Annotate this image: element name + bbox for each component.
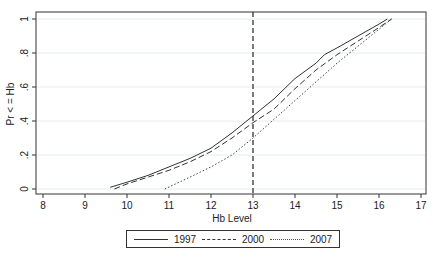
series-1997 [110,19,387,187]
x-tick-label: 13 [247,200,259,211]
chart: 0.2.4.6.81 891011121314151617 Pr < = Hb … [0,0,438,262]
y-tick-label: .6 [19,82,30,91]
dotted-line-swatch-icon [270,239,304,240]
y-tick-label: .8 [19,48,30,57]
solid-line-swatch-icon [134,239,168,240]
y-tick-label: 1 [19,16,30,22]
x-tick-label: 11 [164,200,175,211]
legend-item-2000: 2000 [202,234,264,245]
x-axis-title: Hb Level [212,213,251,224]
x-tick-label: 12 [205,200,217,211]
x-tick-label: 16 [373,200,385,211]
x-tick-label: 8 [40,200,46,211]
legend: 1997 2000 2007 [126,230,340,248]
legend-item-2007: 2007 [270,234,332,245]
x-tick-label: 10 [121,200,133,211]
x-tick-label: 14 [289,200,301,211]
plot-area-border [36,12,426,194]
legend-item-1997: 1997 [134,234,196,245]
y-tick-label: .4 [19,116,30,125]
data-series [110,19,391,189]
legend-label: 1997 [174,234,196,245]
legend-label: 2000 [242,234,264,245]
x-tick-label: 17 [415,200,427,211]
dashed-line-swatch-icon [202,239,236,240]
gridlines [37,19,425,189]
y-axis: 0.2.4.6.81 [19,16,36,192]
y-tick-label: .2 [19,150,30,159]
x-tick-label: 9 [82,200,88,211]
y-tick-label: 0 [19,186,30,192]
y-axis-title: Pr < = Hb [5,82,16,125]
legend-label: 2007 [310,234,332,245]
x-axis: 891011121314151617 [40,194,427,211]
series-2007 [165,19,392,189]
x-tick-label: 15 [331,200,343,211]
